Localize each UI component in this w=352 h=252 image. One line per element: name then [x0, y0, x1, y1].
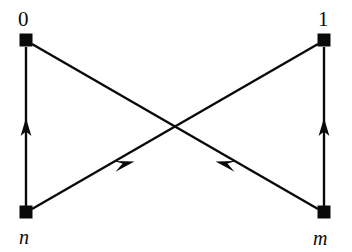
diagram-canvas: 0 1 n m	[0, 0, 352, 252]
node-n-marker[interactable]	[20, 206, 33, 219]
node-one-marker[interactable]	[318, 34, 331, 47]
edges-layer	[21, 44, 330, 209]
node-label-one: 1	[318, 9, 329, 30]
node-m-marker[interactable]	[318, 206, 331, 219]
edge-n-to-zero	[21, 47, 32, 206]
node-label-m: m	[313, 228, 327, 248]
node-label-zero: 0	[18, 9, 29, 30]
edge-m-to-one	[319, 47, 330, 206]
edge-n-to-one-arrowhead	[114, 161, 135, 172]
graph-svg	[0, 0, 352, 252]
node-label-n: n	[19, 227, 29, 247]
edge-m-to-zero-arrowhead	[216, 161, 237, 172]
node-zero-marker[interactable]	[20, 34, 33, 47]
